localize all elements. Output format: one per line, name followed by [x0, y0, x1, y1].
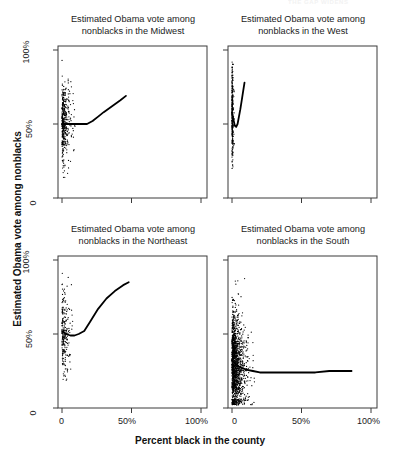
data-point: [234, 373, 235, 374]
data-point: [68, 116, 69, 117]
data-point: [238, 314, 239, 315]
data-point: [68, 160, 69, 161]
data-point: [234, 143, 235, 144]
data-point: [235, 371, 236, 372]
data-point: [248, 368, 249, 369]
data-point: [235, 388, 236, 389]
data-point: [62, 354, 63, 355]
data-point: [65, 365, 66, 366]
data-point: [232, 379, 233, 380]
data-point: [249, 366, 250, 367]
data-point: [240, 384, 241, 385]
data-point: [61, 347, 62, 348]
data-point: [248, 397, 249, 398]
data-point: [237, 324, 238, 325]
data-point: [236, 310, 237, 311]
data-point: [238, 381, 239, 382]
data-point: [235, 359, 236, 360]
data-point: [231, 151, 232, 152]
data-point: [241, 343, 242, 344]
data-point: [239, 377, 240, 378]
data-point: [66, 311, 67, 312]
data-point: [241, 374, 242, 375]
data-point: [243, 340, 244, 341]
data-point: [231, 142, 232, 143]
data-point: [247, 360, 248, 361]
data-point: [237, 341, 238, 342]
data-point: [63, 86, 64, 87]
data-point: [70, 323, 71, 324]
data-point: [249, 358, 250, 359]
data-point: [231, 297, 232, 298]
data-point: [243, 356, 244, 357]
data-point: [238, 353, 239, 354]
data-point: [246, 341, 247, 342]
data-point: [63, 138, 64, 139]
data-point: [62, 103, 63, 104]
data-point: [63, 301, 64, 302]
data-point: [235, 392, 236, 393]
data-point: [234, 112, 235, 113]
data-point: [62, 100, 63, 101]
data-point: [232, 138, 233, 139]
data-point: [61, 116, 62, 117]
data-point: [67, 106, 68, 107]
data-point: [241, 402, 242, 403]
data-point: [232, 67, 233, 68]
data-point: [242, 379, 243, 380]
data-point: [69, 354, 70, 355]
data-point: [65, 354, 66, 355]
data-point: [232, 306, 233, 307]
data-point: [234, 328, 235, 329]
data-point: [240, 396, 241, 397]
data-point: [62, 318, 63, 319]
data-point: [233, 356, 234, 357]
data-point: [63, 361, 64, 362]
data-point: [239, 348, 240, 349]
data-point: [241, 369, 242, 370]
data-point: [236, 393, 237, 394]
data-point: [235, 380, 236, 381]
data-point: [65, 301, 66, 302]
data-point: [64, 345, 65, 346]
data-point: [71, 310, 72, 311]
data-point: [234, 393, 235, 394]
data-point: [64, 105, 65, 106]
data-point: [244, 401, 245, 402]
data-point: [235, 358, 236, 359]
data-point: [236, 390, 237, 391]
data-point: [73, 93, 74, 94]
data-point: [244, 394, 245, 395]
data-point: [233, 381, 234, 382]
data-point: [232, 374, 233, 375]
data-point: [233, 394, 234, 395]
data-point: [64, 313, 65, 314]
data-point: [66, 117, 67, 118]
data-point: [238, 399, 239, 400]
data-point: [65, 115, 66, 116]
data-point: [62, 310, 63, 311]
data-point: [235, 336, 236, 337]
data-point: [242, 346, 243, 347]
panel-midwest: [53, 46, 207, 203]
data-point: [65, 126, 66, 127]
data-point: [62, 111, 63, 112]
data-point: [252, 403, 253, 404]
data-point: [232, 380, 233, 381]
data-point: [242, 351, 243, 352]
data-point: [237, 349, 238, 350]
data-point: [73, 116, 74, 117]
data-point: [62, 134, 63, 135]
data-point: [66, 349, 67, 350]
data-point: [239, 378, 240, 379]
data-point: [64, 133, 65, 134]
data-point: [69, 91, 70, 92]
data-point: [232, 141, 233, 142]
data-point: [64, 120, 65, 121]
data-point: [65, 368, 66, 369]
data-point: [232, 148, 233, 149]
data-point: [242, 353, 243, 354]
data-point: [62, 307, 63, 308]
data-point: [233, 396, 234, 397]
data-point: [231, 316, 232, 317]
